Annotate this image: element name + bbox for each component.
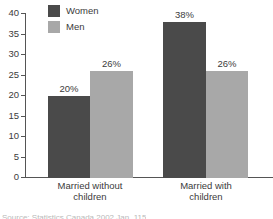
y-tick-label: 15 <box>8 111 19 121</box>
legend-label: Women <box>66 6 99 16</box>
bar-value-label: 26% <box>217 59 236 69</box>
legend-item-women[interactable]: Women <box>48 5 99 17</box>
y-tick-label: 20 <box>8 90 19 100</box>
bar-value-label: 26% <box>102 59 121 69</box>
y-axis-line <box>25 13 26 178</box>
category-label-married-without-children: Married without children <box>35 181 145 202</box>
y-tick-label: 40 <box>8 8 19 18</box>
category-label-line1: Married with <box>150 181 262 192</box>
category-label-married-with-children: Married with children <box>150 181 262 202</box>
y-tick-label: 0 <box>14 172 19 182</box>
bar-women-married-with-children[interactable]: 38% <box>163 22 206 178</box>
category-label-line2: children <box>35 192 145 203</box>
bar-men-married-without-children[interactable]: 26% <box>90 71 133 178</box>
y-tick-label: 25 <box>8 70 19 80</box>
source-note: Source: Statistics Canada 2002 Jan. 115 <box>2 213 146 219</box>
y-tick-label: 10 <box>8 131 19 141</box>
chart-legend: Women Men <box>48 5 99 33</box>
legend-swatch-icon <box>48 5 60 17</box>
bar-chart-figure: 40 35 30 25 20 15 10 5 <box>0 0 273 219</box>
category-label-line1: Married without <box>35 181 145 192</box>
legend-label: Men <box>66 22 84 32</box>
bar-men-married-with-children[interactable]: 26% <box>206 71 248 178</box>
plot-area: 40 35 30 25 20 15 10 5 <box>25 13 273 178</box>
legend-swatch-icon <box>48 21 60 33</box>
bar-value-label: 38% <box>175 10 194 20</box>
y-tick-label: 35 <box>8 29 19 39</box>
y-tick-label: 30 <box>8 49 19 59</box>
legend-item-men[interactable]: Men <box>48 21 99 33</box>
y-tick-label: 5 <box>14 152 19 162</box>
bar-value-label: 20% <box>59 84 78 94</box>
category-label-line2: children <box>150 192 262 203</box>
bar-women-married-without-children[interactable]: 20% <box>48 96 90 178</box>
